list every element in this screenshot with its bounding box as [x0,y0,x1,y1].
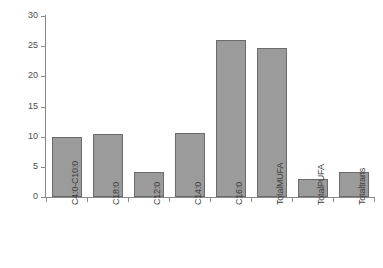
x-axis-tick-label: TotalMUFA [276,163,285,205]
x-axis-tick-label: C16:0 [235,182,244,205]
x-axis-tick [210,197,211,202]
x-axis-tick [128,197,129,202]
y-axis-tick-label: 10 [14,132,38,141]
x-axis-tick-label: C4:0-C10:0 [71,161,80,205]
x-axis-tick [333,197,334,202]
x-axis-tick-label: C14:0 [194,182,203,205]
x-axis-tick [87,197,88,202]
y-axis-tick-label: 20 [14,71,38,80]
x-axis-tick-label: C12:0 [153,182,162,205]
x-axis-tick [251,197,252,202]
x-axis-tick-label: TotalPUFA [317,164,326,205]
y-axis-tick-label: 30 [14,11,38,20]
bar [216,40,246,197]
y-axis-tick-label: 15 [14,102,38,111]
x-axis-tick [374,197,375,202]
x-axis-tick [169,197,170,202]
y-axis-tick-label: 5 [14,162,38,171]
x-axis-tick [292,197,293,202]
x-axis-tick-label: C18:0 [112,182,121,205]
x-axis-tick-label: Totaltrans [358,168,367,205]
y-axis-tick-label: 25 [14,41,38,50]
x-axis-tick [46,197,47,202]
y-axis-tick-label: 0 [14,192,38,201]
bar-chart: 051015202530 C4:0-C10:0C18:0C12:0C14:0C1… [0,0,383,268]
